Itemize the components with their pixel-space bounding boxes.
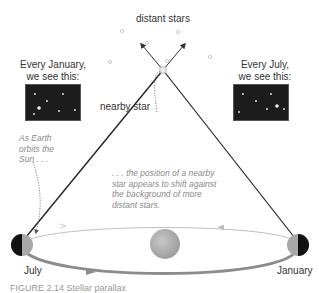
january-label: January <box>277 265 313 277</box>
earth-orbit-line1: As Earth <box>19 133 54 144</box>
star-field-icon <box>26 85 80 120</box>
earth-icon-january <box>287 234 309 256</box>
shift-line4: distant stars. <box>112 200 216 211</box>
july-extension-arrow <box>142 45 163 70</box>
july-label: July <box>24 265 42 277</box>
distant-stars-label: distant stars <box>136 13 190 25</box>
july-sky-view <box>233 84 289 121</box>
distant-star-icon <box>165 59 168 62</box>
distant-star-icon <box>108 60 111 63</box>
distant-star-icon <box>208 55 211 58</box>
earth-orbit-callout: As Earth orbits the Sun . . . <box>19 133 54 165</box>
shift-line3: the background of more <box>112 189 216 200</box>
january-extension-arrow <box>163 45 184 70</box>
distant-star-icons <box>108 29 211 63</box>
shift-line2: star appears to shift against <box>112 179 216 190</box>
nearby-star-icon <box>160 67 166 73</box>
shift-line1: . . . the position of a nearby <box>112 168 216 179</box>
star-field-icon <box>234 85 288 120</box>
figure-caption: FIGURE 2.14 Stellar parallax <box>10 283 126 293</box>
earth-icon-july <box>11 234 33 256</box>
earth-orbit-line3: Sun . . . <box>19 154 54 165</box>
july-view-line2: we see this: <box>230 71 300 83</box>
sun-icon <box>150 229 180 259</box>
july-view-line1: Every July, <box>230 59 300 71</box>
nearby-star-label: nearby star <box>100 101 150 113</box>
january-view-line1: Every January, <box>18 59 88 71</box>
january-view-line2: we see this: <box>18 71 88 83</box>
july-view-label: Every July, we see this: <box>230 59 300 83</box>
earth-orbit-line2: orbits the <box>19 144 54 155</box>
january-sky-view <box>25 84 81 121</box>
distant-star-icon <box>176 30 179 33</box>
distant-star-icon <box>145 41 148 44</box>
distant-star-icon <box>120 29 123 32</box>
shift-callout: . . . the position of a nearby star appe… <box>112 168 216 210</box>
january-view-label: Every January, we see this: <box>18 59 88 83</box>
